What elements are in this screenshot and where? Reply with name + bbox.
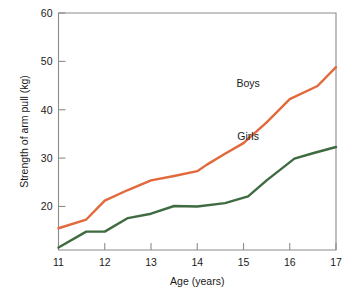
series-line-girls — [59, 147, 337, 248]
x-tick-label: 16 — [284, 256, 296, 268]
x-axis-tick-labels: 11121314151617 — [53, 256, 342, 268]
y-axis-ticks — [59, 13, 66, 206]
series-line-boys — [59, 67, 337, 228]
y-axis-title: Strength of arm pull (kg) — [18, 75, 30, 188]
series-annotations: BoysGirls — [236, 77, 259, 142]
y-tick-label: 40 — [41, 104, 53, 116]
y-tick-label: 50 — [41, 55, 53, 67]
plot-frame — [59, 13, 337, 250]
arm-pull-strength-chart: 11121314151617 2030405060 BoysGirls Age … — [0, 0, 353, 304]
data-series-group — [59, 67, 337, 247]
series-annotation-boys: Boys — [236, 77, 259, 89]
x-tick-label: 12 — [99, 256, 111, 268]
y-tick-label: 60 — [41, 7, 53, 19]
x-tick-label: 17 — [330, 256, 342, 268]
x-tick-label: 13 — [145, 256, 157, 268]
x-axis-title: Age (years) — [170, 275, 224, 287]
x-tick-label: 14 — [191, 256, 203, 268]
x-tick-label: 15 — [238, 256, 250, 268]
plot-border — [59, 13, 337, 250]
chart-canvas: 11121314151617 2030405060 BoysGirls Age … — [0, 0, 353, 304]
y-axis-tick-labels: 2030405060 — [41, 7, 53, 212]
series-annotation-girls: Girls — [237, 130, 259, 142]
y-tick-label: 20 — [41, 200, 53, 212]
x-tick-label: 11 — [53, 256, 64, 268]
x-axis-ticks — [59, 243, 337, 250]
y-tick-label: 30 — [41, 152, 53, 164]
